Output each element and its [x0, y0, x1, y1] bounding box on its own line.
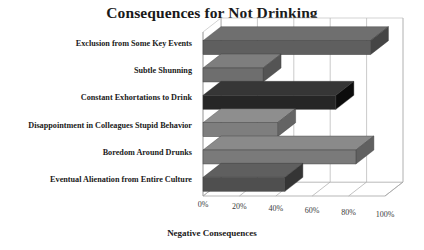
category-label: Disappointment in Colleagues Stupid Beha… [0, 121, 192, 131]
category-label: Eventual Alienation from Entire Culture [0, 175, 192, 185]
x-tick-label: 40% [260, 204, 292, 213]
chart-container: Consequences for Not Drinking Exclusion … [0, 0, 424, 250]
category-label: Constant Exhortations to Drink [0, 93, 192, 103]
x-tick-label: 0% [187, 200, 219, 209]
x-axis-title: Negative Consequences [0, 228, 424, 238]
x-tick-label: 60% [296, 206, 328, 215]
category-label: Subtle Shunning [0, 66, 192, 76]
x-tick-label: 20% [223, 202, 255, 211]
category-label: Exclusion from Some Key Events [0, 39, 192, 49]
x-tick-label: 100% [369, 210, 401, 219]
category-label: Boredom Around Drunks [0, 148, 192, 158]
x-tick-label: 80% [333, 208, 365, 217]
